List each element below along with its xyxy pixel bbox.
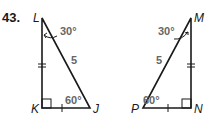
vertex-j: J: [92, 102, 100, 116]
vertex-m: M: [194, 11, 204, 25]
right-angle-marker: [182, 99, 191, 108]
right-triangle: M N P 30° 5 60°: [131, 11, 204, 116]
angle-j-label: 60°: [65, 94, 82, 106]
vertex-n: N: [194, 102, 203, 116]
problem-number: 43.: [2, 10, 20, 25]
vertex-p: P: [131, 102, 139, 116]
hypotenuse-label: 5: [156, 54, 162, 66]
diagram-canvas: 43. L K J 30° 5 60° M N P 30° 5 60°: [0, 0, 211, 117]
vertex-k: K: [31, 102, 40, 116]
angle-l-label: 30°: [60, 25, 77, 37]
vertex-l: L: [33, 11, 40, 25]
angle-m-label: 30°: [158, 25, 175, 37]
left-triangle: L K J 30° 5 60°: [31, 11, 100, 116]
right-angle-marker: [42, 99, 51, 108]
hypotenuse-label: 5: [71, 54, 77, 66]
angle-p-label: 60°: [143, 94, 160, 106]
